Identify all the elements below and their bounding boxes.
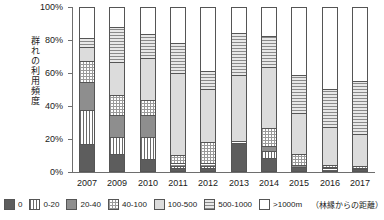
segment-divider <box>292 167 306 168</box>
bar-segment-0 <box>110 155 124 171</box>
segment-divider <box>110 115 124 116</box>
legend-item-label: 0-20 <box>43 199 59 210</box>
bar-segment-100-500 <box>232 76 246 142</box>
segment-divider <box>141 34 155 35</box>
stacked-bar[interactable] <box>109 7 125 172</box>
segment-divider <box>80 47 94 48</box>
bar-segment-1000m <box>262 8 276 37</box>
bar-segment-100-500 <box>141 59 155 101</box>
bar-group[interactable] <box>322 7 338 172</box>
segment-divider <box>171 73 185 74</box>
segment-divider <box>110 137 124 138</box>
stacked-bar[interactable] <box>79 7 95 172</box>
bar-group[interactable] <box>109 7 125 172</box>
stacked-bar[interactable] <box>291 7 307 172</box>
segment-divider <box>262 36 276 37</box>
segment-divider <box>141 58 155 59</box>
segment-divider <box>262 151 276 152</box>
legend-swatch-icon <box>66 199 77 210</box>
stacked-bar[interactable] <box>261 7 277 172</box>
bar-segment-0 <box>171 169 185 171</box>
segment-divider <box>110 62 124 63</box>
bar-series-container <box>72 7 375 172</box>
bar-segment-40-100 <box>110 96 124 116</box>
bar-segment-100-500 <box>262 68 276 129</box>
bar-group[interactable] <box>79 7 95 172</box>
bar-segment-100-500 <box>110 63 124 96</box>
bar-segment-40-100 <box>201 143 215 164</box>
segment-divider <box>323 165 337 166</box>
segment-divider <box>201 89 215 90</box>
segment-divider <box>80 110 94 111</box>
segment-divider <box>323 167 337 168</box>
segment-divider <box>171 168 185 169</box>
legend-swatch-icon <box>204 199 215 210</box>
legend-item[interactable]: 0-20 <box>29 199 59 210</box>
segment-divider <box>292 154 306 155</box>
segment-divider <box>141 159 155 160</box>
segment-divider <box>80 61 94 62</box>
bar-segment-100-500 <box>171 74 185 156</box>
x-axis-label: 2007 <box>70 178 104 188</box>
segment-divider <box>292 113 306 114</box>
x-axis-label: 2016 <box>313 178 347 188</box>
stacked-bar[interactable] <box>352 7 368 172</box>
bar-group[interactable] <box>352 7 368 172</box>
bar-group[interactable] <box>261 7 277 172</box>
x-axis-label: 2017 <box>343 178 377 188</box>
segment-divider <box>201 163 215 164</box>
bar-segment-500-1000 <box>201 72 215 89</box>
legend-item[interactable]: 40-100 <box>108 199 147 210</box>
x-axis-label: 2013 <box>222 178 256 188</box>
bar-segment-0 <box>141 160 155 171</box>
bar-segment-0 <box>323 169 337 171</box>
bar-group[interactable] <box>200 7 216 172</box>
segment-divider <box>262 128 276 129</box>
bar-group[interactable] <box>170 7 186 172</box>
bar-group[interactable] <box>231 7 247 172</box>
legend-swatch-icon <box>154 199 165 210</box>
segment-divider <box>323 89 337 90</box>
segment-divider <box>171 155 185 156</box>
bar-segment-40-100 <box>141 101 155 116</box>
stacked-bar[interactable] <box>170 7 186 172</box>
legend-item[interactable]: 500-1000 <box>204 199 252 210</box>
stacked-bar[interactable] <box>322 7 338 172</box>
bar-segment-1000m <box>292 8 306 76</box>
stacked-bar[interactable] <box>140 7 156 172</box>
segment-divider <box>201 142 215 143</box>
bar-group[interactable] <box>291 7 307 172</box>
legend-item-label: 0 <box>18 199 22 210</box>
bar-segment-500-1000 <box>292 76 306 113</box>
bar-segment-1000m <box>232 8 246 34</box>
y-axis-tick-label: 20% <box>23 134 63 144</box>
x-axis-label: 2009 <box>100 178 134 188</box>
stacked-bar-chart: 群れの利用頻度 0%20%40%60%80%100% 2007200920102… <box>0 0 384 220</box>
bar-segment-20-40 <box>80 83 94 111</box>
legend-item[interactable]: 100-500 <box>154 199 197 210</box>
bar-segment-0 <box>262 159 276 171</box>
bar-segment-500-1000 <box>110 28 124 62</box>
segment-divider <box>353 168 367 169</box>
legend-item[interactable]: 20-40 <box>66 199 100 210</box>
legend-item-label: 100-500 <box>168 199 197 210</box>
bar-group[interactable] <box>140 7 156 172</box>
bar-segment-500-1000 <box>323 90 337 128</box>
x-axis-label: 2012 <box>191 178 225 188</box>
segment-divider <box>80 82 94 83</box>
segment-divider <box>171 43 185 44</box>
y-axis-tick-label: 40% <box>23 101 63 111</box>
bar-segment-1000m <box>353 8 367 82</box>
legend-item[interactable]: 0 <box>4 199 22 210</box>
stacked-bar[interactable] <box>231 7 247 172</box>
stacked-bar[interactable] <box>200 7 216 172</box>
chart-legend: 00-2020-4040-100100-500500-1000>1000m（林縁… <box>4 196 382 212</box>
bar-segment-500-1000 <box>262 37 276 68</box>
legend-swatch-icon <box>29 199 40 210</box>
segment-divider <box>232 75 246 76</box>
segment-divider <box>201 168 215 169</box>
segment-divider <box>353 166 367 167</box>
segment-divider <box>201 71 215 72</box>
legend-item[interactable]: >1000m <box>259 199 302 210</box>
segment-divider <box>262 67 276 68</box>
